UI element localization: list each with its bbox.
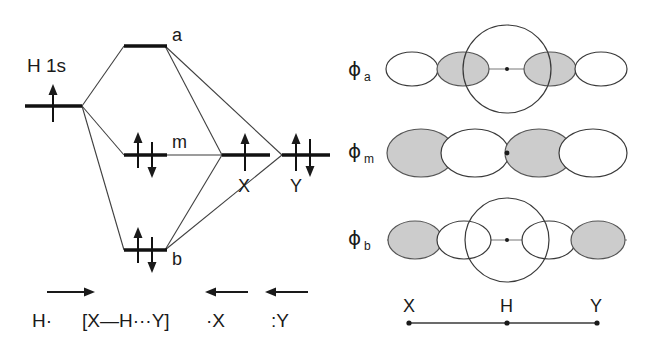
partner-x-radical: ·X	[206, 310, 225, 331]
phi-b-lobe-y-outer	[571, 221, 625, 259]
phi-a-center-dot	[505, 67, 509, 71]
phi-a-symbol: ϕ	[348, 57, 361, 81]
axis-dot-h	[504, 320, 509, 325]
level-a-label: a	[172, 25, 183, 45]
phi-a-lobe-y-outer	[575, 52, 627, 86]
transition-state-label: [X—H···Y]	[82, 310, 170, 331]
level-y-label: Y	[290, 176, 302, 196]
phi-m-subscript: m	[364, 152, 374, 166]
axis-atom-x: X	[403, 296, 415, 316]
axis-atom-y: Y	[590, 296, 602, 316]
orbital-row-phi-a: ϕ a	[348, 25, 627, 113]
level-m: m	[124, 132, 222, 178]
mo-orbital-figure: a m b H 1s	[0, 0, 670, 345]
h1s-label: H 1s	[27, 55, 66, 76]
level-h1s: H 1s	[25, 55, 82, 122]
phi-a-lobe-y-inner	[524, 52, 576, 86]
axis-dot-x	[406, 320, 411, 325]
orbital-shape-panel: ϕ a ϕ m	[335, 0, 670, 345]
orbital-row-phi-b: ϕ b	[348, 198, 627, 282]
level-a: a	[124, 25, 183, 46]
left-arrow-x-icon	[205, 288, 248, 297]
phi-m-symbol: ϕ	[348, 139, 361, 163]
phi-b-subscript: b	[364, 239, 371, 253]
reaction-scheme: H· [X—H···Y] ·X :Y	[32, 288, 308, 332]
phi-m-center-dot	[505, 151, 510, 156]
phi-b-lobe-x-inner	[437, 221, 491, 259]
level-x: X	[222, 133, 270, 196]
phi-a-lobe-x-outer	[386, 52, 438, 86]
right-arrow-icon	[47, 288, 95, 297]
reactant-h-radical: H·	[32, 310, 52, 331]
level-x-label: X	[238, 176, 250, 196]
mo-energy-level-diagram: a m b H 1s	[0, 0, 335, 345]
phi-a-subscript: a	[364, 70, 371, 84]
level-b-label: b	[172, 249, 182, 269]
phi-m-lobe-x-inner	[441, 129, 509, 177]
axis-dot-y	[594, 320, 599, 325]
phi-b-center-dot	[505, 238, 509, 242]
phi-m-lobe-y-outer	[559, 129, 627, 177]
axis-atom-h: H	[500, 296, 513, 316]
phi-b-symbol: ϕ	[348, 226, 361, 250]
geometry-axis: X H Y	[403, 296, 602, 326]
orbital-row-phi-m: ϕ m	[348, 129, 627, 177]
left-arrow-y-icon	[265, 288, 308, 297]
level-b: b	[124, 227, 182, 273]
correlation-lines-left	[82, 46, 124, 250]
partner-y-lonepair: :Y	[271, 310, 289, 331]
phi-b-lobe-x-outer	[388, 221, 442, 259]
level-m-label: m	[172, 132, 187, 152]
level-y: Y	[282, 133, 330, 196]
